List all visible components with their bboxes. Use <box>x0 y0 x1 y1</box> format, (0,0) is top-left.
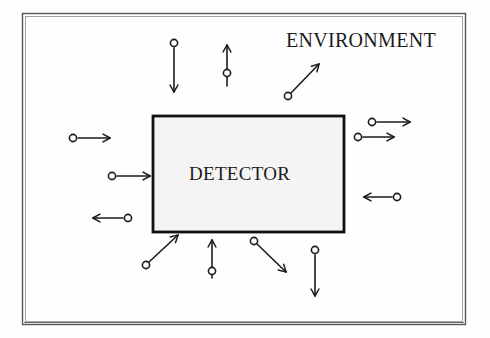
diagram-canvas: ENVIRONMENT DETECTOR <box>0 0 490 338</box>
environment-label: ENVIRONMENT <box>286 29 436 51</box>
detector-label: DETECTOR <box>189 163 290 184</box>
